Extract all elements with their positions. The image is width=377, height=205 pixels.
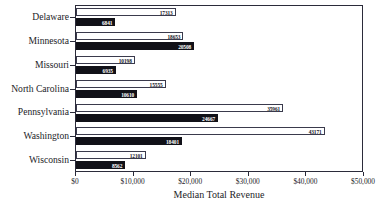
bar-value-label: 35961: [267, 105, 280, 113]
bar-chart: DelawareMinnesotaMissouriNorth CarolinaP…: [0, 0, 377, 205]
bar-lower: 6841: [76, 18, 115, 26]
bar-value-label: 18401: [166, 138, 179, 146]
bar-group: 121018562: [76, 149, 362, 173]
bar-upper: 15555: [76, 80, 166, 88]
x-axis-tick: [305, 172, 306, 176]
bar-value-label: 17313: [160, 9, 173, 17]
x-axis-tick-label: $20,000: [178, 177, 202, 186]
bar-value-label: 43171: [309, 128, 322, 136]
x-axis-tick-label: $40,000: [293, 177, 317, 186]
bar-group: 1865320508: [76, 30, 362, 54]
bar-upper: 12101: [76, 151, 146, 159]
bar-lower: 10610: [76, 90, 137, 98]
bar-upper: 17313: [76, 8, 176, 16]
bar-value-label: 24667: [202, 115, 215, 123]
bar-lower: 6935: [76, 66, 116, 74]
y-axis-tick-label: Pennsylvania: [0, 107, 69, 117]
x-axis-tick: [248, 172, 249, 176]
bar-value-label: 10198: [119, 57, 132, 65]
bar-lower: 18401: [76, 137, 182, 145]
y-axis-tick-label: Wisconsin: [0, 155, 69, 165]
bar-value-label: 20508: [178, 43, 191, 51]
bar-value-label: 15555: [150, 81, 163, 89]
bar-upper: 18653: [76, 32, 183, 40]
bar-lower: 20508: [76, 42, 194, 50]
y-axis-tick-label: Missouri: [0, 60, 69, 70]
y-axis-labels: DelawareMinnesotaMissouriNorth CarolinaP…: [0, 5, 75, 172]
bar-group: 4317118401: [76, 125, 362, 149]
x-axis-tick-label: $0: [71, 177, 78, 186]
plot-area: 1731368411865320508101986935155551061035…: [75, 5, 363, 172]
x-axis-title: Median Total Revenue: [75, 189, 363, 200]
x-axis-tick: [133, 172, 134, 176]
bar-group: 3596124667: [76, 101, 362, 125]
y-axis-tick-label: Delaware: [0, 12, 69, 22]
x-axis-tick-label: $50,000: [351, 177, 375, 186]
x-axis-tick-label: $10,000: [121, 177, 145, 186]
bar-value-label: 12101: [130, 152, 143, 160]
bar-group: 1555510610: [76, 78, 362, 102]
bar-value-label: 6841: [102, 19, 112, 27]
y-axis-tick-label: North Carolina: [0, 84, 69, 94]
bar-value-label: 6935: [103, 67, 113, 75]
bar-lower: 8562: [76, 161, 125, 169]
y-axis-tick-label: Washington: [0, 131, 69, 141]
x-axis-tick: [75, 172, 76, 176]
bar-group: 101986935: [76, 54, 362, 78]
x-axis-tick-label: $30,000: [236, 177, 260, 186]
bar-upper: 35961: [76, 104, 283, 112]
x-axis-tick: [190, 172, 191, 176]
bar-upper: 43171: [76, 127, 325, 135]
bar-lower: 24667: [76, 114, 218, 122]
x-axis-tick: [363, 172, 364, 176]
bar-group: 173136841: [76, 6, 362, 30]
y-axis-tick-label: Minnesota: [0, 36, 69, 46]
bar-value-label: 18653: [167, 33, 180, 41]
bar-value-label: 8562: [112, 162, 122, 170]
bar-upper: 10198: [76, 56, 135, 64]
bar-value-label: 10610: [121, 91, 134, 99]
